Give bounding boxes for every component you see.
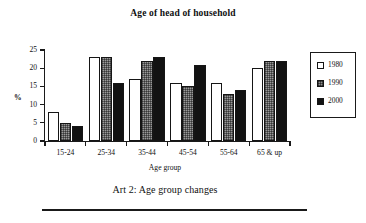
y-axis-tick-label: 20 [19,64,37,72]
bar-1980-65-up [252,68,263,141]
bar-2000-55-64 [235,90,246,141]
y-axis-tick-label: 10 [19,101,37,109]
bar-1990-35-44 [141,61,152,141]
x-axis-label-35-44: 35-44 [127,149,168,157]
legend-swatch-2000 [317,98,324,105]
bar-2000-25-34 [113,83,124,141]
bar-1980-45-54 [170,83,181,141]
x-axis-tick [289,141,290,146]
bar-2000-35-44 [153,57,164,141]
x-axis-tick [208,141,209,146]
x-axis-label-55-64: 55-64 [208,149,249,157]
x-axis-tick [44,141,45,146]
legend: 198019902000 [310,52,356,118]
x-axis-label-45-54: 45-54 [168,149,209,157]
legend-label-2000: 2000 [328,97,343,105]
y-axis-tick-label: 15 [19,82,37,90]
bar-1990-25-34 [101,57,112,141]
figure-caption: Art 2: Age group changes [0,184,330,195]
bar-2000-45-54 [194,65,205,141]
bar-1980-25-34 [89,57,100,141]
x-axis-label-15-24: 15-24 [45,149,86,157]
legend-swatch-1980 [317,62,324,69]
x-axis-tick [249,141,250,146]
legend-label-1990: 1990 [328,79,343,87]
bar-1980-55-64 [211,83,222,141]
legend-swatch-1990 [317,80,324,87]
legend-item-1980[interactable]: 1980 [317,60,343,70]
legend-item-1990[interactable]: 1990 [317,78,343,88]
x-axis-tick [85,141,86,146]
x-axis-tick [126,141,127,146]
bar-1980-35-44 [129,79,140,141]
x-axis-tick [167,141,168,146]
bar-1990-65-up [264,61,275,141]
bar-1990-15-24 [60,123,71,141]
bar-2000-65-up [276,61,287,141]
x-axis-label-65-up: 65 & up [249,149,290,157]
bar-1980-15-24 [48,112,59,141]
legend-label-1980: 1980 [328,61,343,69]
bar-1990-45-54 [182,86,193,141]
x-axis-label-25-34: 25-34 [86,149,127,157]
x-axis-title: Age group [0,163,330,172]
legend-item-2000[interactable]: 2000 [317,96,343,106]
bar-1990-55-64 [223,94,234,141]
plot-area [45,50,290,141]
horizontal-rule [42,209,307,211]
bar-2000-15-24 [72,126,83,141]
y-axis-tick-label: 25 [19,46,37,54]
y-axis-tick-label: 5 [19,119,37,127]
chart-title: Age of head of household [0,8,366,18]
y-axis-tick-label: 0 [19,137,37,145]
